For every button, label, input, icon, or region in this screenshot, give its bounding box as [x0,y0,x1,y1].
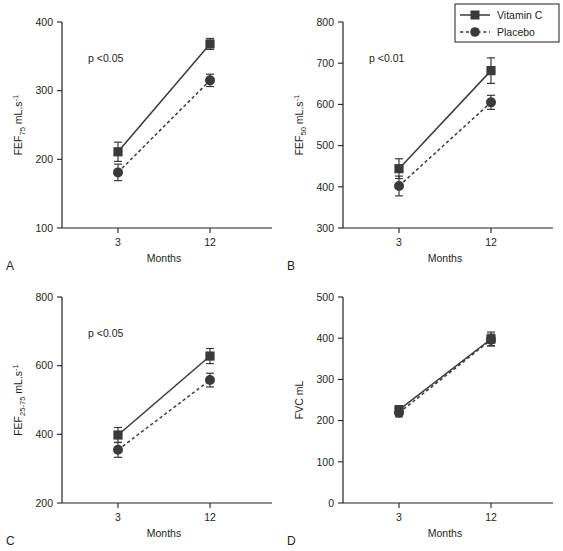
chart-panel-c: 200400600800312MonthsFEF25-75 mL.s-1p <0… [0,275,282,551]
chart-panel-a: 100200300400312MonthsFEF75 mL.s-1p <0.05… [0,0,282,276]
y-tick-label: 400 [35,16,53,28]
y-tick-label: 100 [316,456,334,468]
series-line-placebo [399,340,491,413]
series-line-vitamin-c [118,356,210,435]
p-value-annotation: p <0.01 [369,52,404,64]
x-tick-label: 12 [485,511,497,523]
data-point-circle [205,375,215,385]
y-tick-label: 500 [316,291,334,303]
y-tick-label: 200 [35,153,53,165]
y-tick-label: 200 [35,497,53,509]
y-tick-label: 400 [316,181,334,193]
x-axis-title: Months [428,527,462,539]
data-point-square [113,147,122,156]
legend-label-placebo: Placebo [497,26,535,38]
y-tick-label: 300 [316,222,334,234]
y-tick-label: 200 [316,414,334,426]
x-tick-label: 3 [115,236,121,248]
legend-marker-square [471,11,480,20]
panel-letter: B [287,259,295,273]
data-point-circle [113,445,123,455]
panel-d-svg: 0100200300400500312MonthsFVC mLD [281,275,563,551]
y-tick-label: 500 [316,139,334,151]
data-point-circle [394,181,404,191]
y-axis-title: FEF25-75 mL.s-1 [11,364,27,436]
y-axis-title: FVC mL [293,381,305,420]
data-point-square [205,39,214,48]
series-line-placebo [399,102,491,186]
y-axis-title: FEF75 mL.s-1 [11,95,27,156]
x-axis-title: Months [428,252,462,264]
x-tick-label: 12 [204,511,216,523]
panel-a-svg: 100200300400312MonthsFEF75 mL.s-1p <0.05… [0,0,282,276]
x-axis-title: Months [147,527,181,539]
y-tick-label: 0 [328,497,334,509]
y-tick-label: 100 [35,222,53,234]
y-tick-label: 300 [316,373,334,385]
series-line-vitamin-c [399,339,491,410]
chart-panel-b: 300400500600700800312MonthsFEF50 mL.s-1p… [281,0,563,276]
p-value-annotation: p <0.05 [88,327,123,339]
y-tick-label: 800 [316,16,334,28]
y-tick-label: 800 [35,291,53,303]
x-tick-label: 12 [485,236,497,248]
panel-letter: A [6,259,14,273]
series-line-placebo [118,380,210,450]
data-point-circle [394,408,404,418]
data-point-square [394,164,403,173]
panel-c-svg: 200400600800312MonthsFEF25-75 mL.s-1p <0… [0,275,282,551]
y-tick-label: 400 [316,332,334,344]
y-tick-label: 400 [35,428,53,440]
panel-b-svg: 300400500600700800312MonthsFEF50 mL.s-1p… [281,0,563,276]
y-tick-label: 600 [316,98,334,110]
series-line-vitamin-c [118,44,210,152]
data-point-square [486,66,495,75]
panel-letter: D [287,534,296,548]
series-line-placebo [118,80,210,172]
legend-marker-circle [470,27,480,37]
panel-letter: C [6,534,15,548]
x-tick-label: 3 [115,511,121,523]
x-tick-label: 3 [396,236,402,248]
figure-panel-group: 100200300400312MonthsFEF75 mL.s-1p <0.05… [0,0,563,551]
series-line-vitamin-c [399,71,491,169]
data-point-square [113,430,122,439]
data-point-circle [486,97,496,107]
legend-label-vitamin-c: Vitamin C [497,9,543,21]
chart-panel-d: 0100200300400500312MonthsFVC mLD [281,275,563,551]
y-axis-title: FEF50 mL.s-1 [292,95,308,156]
x-axis-title: Months [147,252,181,264]
x-tick-label: 3 [396,511,402,523]
x-tick-label: 12 [204,236,216,248]
y-tick-label: 600 [35,359,53,371]
p-value-annotation: p <0.05 [88,52,123,64]
data-point-circle [486,335,496,345]
y-tick-label: 700 [316,57,334,69]
data-point-circle [113,167,123,177]
y-tick-label: 300 [35,84,53,96]
data-point-square [205,351,214,360]
data-point-circle [205,75,215,85]
